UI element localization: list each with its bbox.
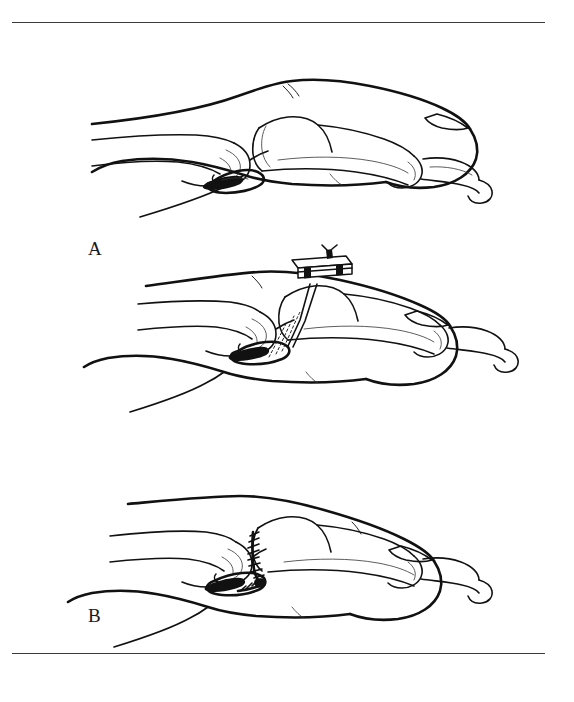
dip-condyle-arc-c [408, 562, 415, 580]
volar-pulp-crease-a [330, 174, 342, 185]
distal-phalanx-tuft-c [468, 580, 492, 603]
suture-knot-c [254, 578, 266, 588]
button-post-right-b [336, 265, 343, 276]
dip-condyle-arc-b [434, 331, 441, 349]
finger-lateral-view-b [84, 245, 518, 412]
button-knot-whisker-right-b [332, 245, 337, 249]
volar-soft-tissue-line-c [114, 607, 208, 647]
proximal-phalanx-volar-cortex-b [138, 326, 252, 339]
suture-tract-in-bone-dashed-1-b [282, 312, 300, 351]
dip-condyle-arc-a [408, 162, 415, 180]
proximal-phalanx-dorsal-cortex-a [92, 135, 234, 143]
distal-phalanx-tuft-b [494, 349, 518, 372]
middle-phalanx-shaft-volar-c [268, 570, 414, 586]
volar-plate-tail-b [206, 351, 231, 356]
fingertip-pulp-c [350, 561, 441, 620]
middle-phalanx-base-lip-b [279, 297, 288, 340]
middle-phalanx-dorsal-cortex-c [258, 517, 331, 552]
proximal-phalanx-volar-cortex-c [110, 558, 224, 571]
volar-plate-shadow-b [229, 347, 270, 361]
volar-soft-tissue-line-b [130, 372, 224, 412]
panel-b: B [0, 224, 574, 414]
finger-lateral-view-c [68, 496, 492, 647]
panel-c: C [0, 462, 574, 652]
panel-a-illustration [0, 34, 574, 224]
volar-plate-tail-a [182, 181, 207, 186]
top-horizontal-rule [12, 22, 545, 23]
middle-phalanx-dorsal-cortex-b [285, 286, 358, 321]
dorsal-crease-2-a [288, 84, 299, 96]
fingertip-pulp-b [366, 326, 457, 385]
button-post-left-b [304, 268, 311, 279]
middle-phalanx-trabecular-line-c [284, 559, 414, 575]
volar-skin-contour-b [84, 356, 366, 382]
panel-a: A [0, 34, 574, 224]
dorsal-skin-contour-b [146, 271, 450, 326]
dorsal-pullout-button-b [292, 245, 352, 279]
volar-skin-contour-c [68, 591, 350, 617]
dorsal-crease-b [252, 276, 262, 288]
middle-phalanx-base-lip-a [253, 128, 262, 171]
panel-c-illustration [0, 462, 574, 652]
middle-phalanx-shaft-volar-b [288, 338, 434, 354]
proximal-phalanx-dorsal-cortex-c [110, 531, 236, 542]
fingernail-b [405, 311, 448, 327]
condyle-inner-arc-2-b [246, 327, 257, 343]
middle-phalanx-dorsal-cortex-a [259, 117, 332, 152]
distal-phalanx-volar-c [421, 579, 479, 593]
button-knot-whisker-left-b [322, 245, 327, 250]
fingernail-a [425, 114, 468, 130]
volar-plate-tail-c [182, 582, 207, 587]
proximal-phalanx-dorsal-cortex-b [138, 301, 260, 312]
finger-lateral-view-a [92, 80, 492, 217]
dorsal-skin-contour-a [92, 80, 470, 129]
dorsal-crease-a [283, 86, 293, 98]
distal-phalanx-tuft-a [468, 180, 492, 203]
middle-phalanx-base-ridge-a [262, 126, 270, 167]
figure-root: A [0, 0, 574, 702]
bottom-horizontal-rule [12, 653, 545, 654]
distal-phalanx-dorsal-c [423, 558, 479, 580]
distal-phalanx-volar-a [421, 179, 479, 193]
dorsal-skin-contour-c [128, 496, 434, 561]
panel-b-illustration [0, 224, 574, 414]
